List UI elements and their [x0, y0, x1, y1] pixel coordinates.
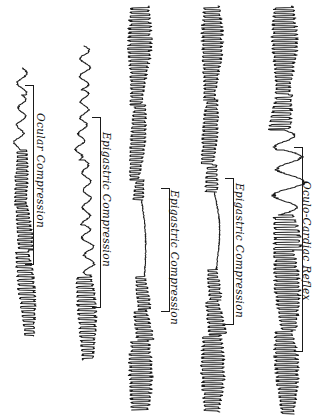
bracket-2-top-tick [92, 117, 101, 118]
label-1: Ocular Compression [35, 113, 47, 228]
bracket-2-bottom-tick [92, 307, 101, 308]
bracket-5-bottom-tick [294, 351, 303, 352]
waveform-trace-2 [75, 46, 97, 360]
bracket-3-top-tick [161, 188, 170, 189]
bracket-4-bottom-tick [225, 324, 234, 325]
bracket-5-top-tick [294, 147, 303, 148]
waveform-trace-3 [128, 6, 154, 410]
label-2: Epigastric Compression [101, 132, 113, 267]
waveform-traces-layer [0, 0, 325, 417]
bracket-4-top-tick [225, 178, 234, 179]
label-3: Epigastric Compression [169, 190, 181, 325]
label-4: Epigastric Compression [234, 183, 246, 318]
bracket-1-spine [33, 85, 34, 265]
bracket-1-top-tick [25, 85, 34, 86]
physiological-trace-figure: Ocular CompressionEpigastric Compression… [0, 0, 325, 417]
waveform-trace-4 [201, 6, 227, 412]
bracket-1-bottom-tick [25, 264, 34, 265]
label-5: Oculo-Cardiac Reflex [301, 181, 313, 301]
